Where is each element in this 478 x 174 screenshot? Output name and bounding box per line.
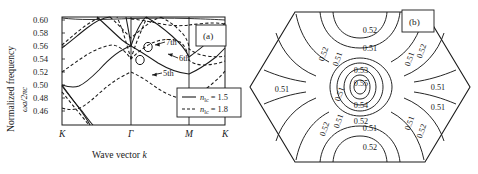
figure-svg: Normalized frequency ωa/2πc 0.60 0.58 0.… — [0, 0, 478, 174]
y-tick-label: 0.58 — [33, 28, 48, 38]
y-tick-label: 0.50 — [33, 80, 48, 90]
x-tick-label-k-left: K — [58, 129, 66, 139]
x-tick-label-k-right: K — [221, 129, 229, 139]
panel-label-a-group: (a) — [196, 25, 226, 46]
x-tick-label-m: M — [184, 129, 194, 139]
y-tick-label: 0.56 — [33, 41, 49, 51]
contour-label: 0.51 — [363, 124, 377, 133]
x-axis-label: Wave vector k — [92, 149, 147, 160]
figure-container: Normalized frequency ωa/2πc 0.60 0.58 0.… — [0, 0, 478, 174]
contour-label: 0.52 — [363, 26, 377, 35]
panel-label-a: (a) — [203, 31, 213, 41]
y-tick-label: 0.60 — [33, 15, 48, 25]
contour-label: 0.54 — [354, 101, 368, 110]
panel-b: 0.52 0.51 0.52 0.51 0.51 0.51 0.53 0.55 … — [250, 10, 470, 162]
y-tick-label: 0.46 — [33, 106, 49, 116]
contour-label: 0.52 — [363, 143, 377, 152]
contour-label: 0.51 — [431, 83, 445, 92]
contour-label: 0.51 — [363, 44, 377, 53]
contour-label: 0.53 — [354, 66, 368, 75]
annotation-label-5th: 5th — [163, 69, 175, 78]
y-axis-label-main: Normalized frequency — [5, 46, 16, 132]
y-tick-label: 0.52 — [33, 67, 48, 77]
y-axis-label-sub: ωa/2πc — [19, 87, 29, 112]
legend-a: nlc = 1.5 nlc = 1.8 — [177, 88, 241, 117]
annotation-label-6th: 6th — [179, 54, 191, 63]
panel-label-b-group: (b) — [402, 10, 434, 32]
contour-label: 0.51 — [431, 103, 445, 112]
panel-label-b: (b) — [409, 17, 420, 27]
annotation-label-7th: 7th — [166, 38, 178, 47]
contour-label: 0.51 — [275, 85, 289, 94]
x-tick-label-gamma: Γ — [127, 129, 134, 139]
y-tick-label: 0.54 — [33, 54, 49, 64]
y-tick-label: 0.48 — [33, 93, 48, 103]
contour-label: 0.55 — [354, 79, 368, 88]
